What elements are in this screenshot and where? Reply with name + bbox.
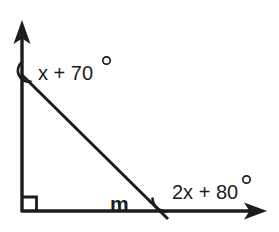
right-angle-marker <box>23 197 37 211</box>
vertical-ray <box>14 20 31 212</box>
geometry-figure: x + 70 m 2x + 80 <box>0 0 279 232</box>
geometry-diagram-container: x + 70 m 2x + 80 <box>0 0 279 232</box>
degree-symbol-icon-bottom <box>243 176 250 183</box>
degree-symbol-icon-top <box>103 57 110 64</box>
top-angle-label-group: x + 70 <box>38 57 110 84</box>
bottom-right-angle-label-group: 2x + 80 <box>172 176 250 203</box>
interior-angle-label: m <box>110 192 129 215</box>
bottom-right-angle-label: 2x + 80 <box>172 181 238 203</box>
transversal-line <box>21 74 168 219</box>
top-angle-label: x + 70 <box>38 62 93 84</box>
horizontal-ray <box>21 203 267 220</box>
